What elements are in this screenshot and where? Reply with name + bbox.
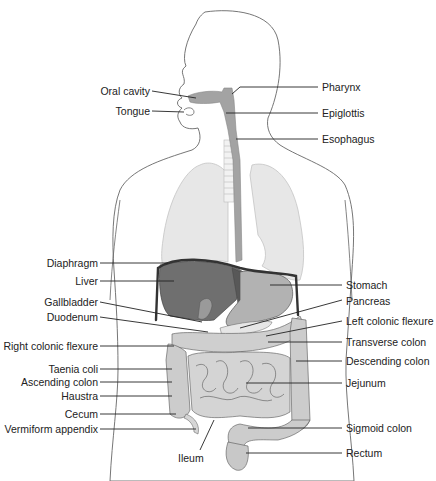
label-left-colonic-flexure: Left colonic flexure bbox=[346, 315, 434, 327]
ascending-colon bbox=[166, 344, 190, 418]
label-right-colonic-flexure: Right colonic flexure bbox=[3, 340, 98, 352]
label-transverse-colon: Transverse colon bbox=[346, 336, 426, 348]
label-sigmoid-colon: Sigmoid colon bbox=[346, 422, 412, 434]
label-oral-cavity: Oral cavity bbox=[100, 85, 150, 97]
label-pharynx: Pharynx bbox=[322, 81, 361, 93]
label-ileum: Ileum bbox=[178, 452, 204, 464]
label-liver: Liver bbox=[75, 275, 98, 287]
label-vermiform-appendix: Vermiform appendix bbox=[5, 423, 98, 435]
small-intestine bbox=[188, 352, 290, 418]
label-ascending-colon: Ascending colon bbox=[21, 376, 98, 388]
label-duodenum: Duodenum bbox=[47, 311, 98, 323]
label-esophagus: Esophagus bbox=[322, 133, 375, 145]
label-jejunum: Jejunum bbox=[346, 377, 386, 389]
label-pancreas: Pancreas bbox=[346, 295, 390, 307]
label-diaphragm: Diaphragm bbox=[47, 257, 98, 269]
label-stomach: Stomach bbox=[346, 279, 387, 291]
label-haustra: Haustra bbox=[61, 390, 98, 402]
label-rectum: Rectum bbox=[346, 447, 382, 459]
label-cecum: Cecum bbox=[65, 408, 98, 420]
label-taenia-coli: Taenia coli bbox=[48, 363, 98, 375]
label-tongue: Tongue bbox=[116, 105, 150, 117]
label-descending-colon: Descending colon bbox=[346, 355, 429, 367]
label-epiglottis: Epiglottis bbox=[322, 107, 365, 119]
label-gallbladder: Gallbladder bbox=[44, 296, 98, 308]
